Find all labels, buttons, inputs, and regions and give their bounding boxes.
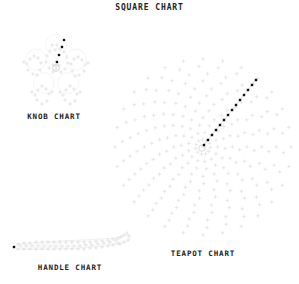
plus-marker <box>122 233 126 237</box>
plus-marker <box>190 155 194 159</box>
plus-marker <box>197 65 201 69</box>
plus-marker <box>175 206 179 210</box>
plus-marker <box>221 231 225 235</box>
plus-marker <box>251 133 255 137</box>
plus-marker <box>170 79 174 83</box>
plus-marker <box>197 189 201 193</box>
plus-marker <box>100 239 104 243</box>
plus-marker <box>193 203 197 207</box>
plus-marker <box>64 247 68 251</box>
plus-marker <box>77 73 81 77</box>
plus-marker <box>30 244 34 248</box>
plus-marker <box>48 49 52 53</box>
square-marker <box>56 61 58 63</box>
plus-marker <box>181 114 185 118</box>
plus-marker <box>54 67 58 71</box>
plus-marker <box>61 93 65 97</box>
plus-marker <box>205 226 209 230</box>
plus-marker <box>257 129 261 133</box>
plus-marker <box>34 247 38 251</box>
plus-marker <box>82 240 86 244</box>
plus-marker <box>186 161 190 165</box>
plus-marker <box>179 144 183 148</box>
plus-marker <box>166 136 170 140</box>
plus-marker <box>214 163 218 167</box>
plus-marker <box>249 100 253 104</box>
plus-marker <box>51 63 55 67</box>
plus-marker <box>287 126 291 130</box>
plus-marker <box>114 238 118 242</box>
plus-marker <box>75 92 79 96</box>
square-marker <box>231 109 233 111</box>
plus-marker <box>125 231 129 235</box>
plus-marker <box>26 68 30 72</box>
plus-marker <box>270 187 274 191</box>
plus-marker <box>151 158 155 162</box>
plus-marker <box>146 214 150 218</box>
plus-marker <box>240 83 244 87</box>
plus-marker <box>255 183 259 187</box>
plus-marker <box>215 179 219 183</box>
plus-marker <box>187 217 191 221</box>
plus-marker <box>252 149 256 153</box>
plus-marker <box>80 58 84 62</box>
plus-marker <box>63 67 67 71</box>
plus-marker <box>159 196 163 200</box>
plus-marker <box>135 149 139 153</box>
plus-marker <box>257 162 261 166</box>
plus-marker <box>116 236 120 240</box>
plus-marker <box>128 154 132 158</box>
plus-marker <box>122 183 126 187</box>
square-marker <box>219 124 221 126</box>
plus-marker <box>200 152 204 156</box>
plus-marker <box>54 60 58 64</box>
plus-marker <box>154 202 158 206</box>
plus-marker <box>25 62 29 66</box>
plus-marker <box>40 102 44 106</box>
square-marker <box>211 134 213 136</box>
plus-marker <box>263 167 267 171</box>
plus-marker <box>219 82 223 86</box>
plus-marker <box>230 145 234 149</box>
plus-marker <box>197 101 201 105</box>
plus-marker <box>245 118 249 122</box>
figure-title: SQUARE CHART <box>0 3 299 12</box>
teapot-hub-ring <box>199 145 205 151</box>
square-marker <box>247 89 249 91</box>
plus-marker <box>221 59 225 63</box>
plus-marker <box>68 84 72 88</box>
plus-marker <box>201 138 205 142</box>
plus-marker <box>196 131 200 135</box>
plus-marker <box>46 247 50 251</box>
plus-marker <box>45 99 49 103</box>
plus-marker <box>174 102 178 106</box>
plus-marker <box>234 161 238 165</box>
plus-marker <box>224 75 228 79</box>
square-marker <box>61 46 63 48</box>
plus-marker <box>220 156 224 160</box>
plus-marker <box>106 244 110 248</box>
plus-marker <box>190 118 194 122</box>
plus-marker <box>38 68 42 72</box>
plus-marker <box>281 131 285 135</box>
plus-marker <box>196 150 200 154</box>
plus-marker <box>108 240 112 244</box>
plus-marker <box>245 145 249 149</box>
plus-marker <box>127 234 131 238</box>
plus-marker <box>18 244 22 248</box>
plus-marker <box>239 224 243 228</box>
plus-marker <box>145 88 149 92</box>
handle-segment-ring <box>78 241 84 246</box>
plus-marker <box>60 44 64 48</box>
plus-marker <box>22 60 26 64</box>
handle-segment-ring <box>22 244 28 249</box>
plus-marker <box>278 170 282 174</box>
plus-marker <box>86 61 90 65</box>
plus-marker <box>222 137 226 141</box>
plus-marker <box>58 90 62 94</box>
plus-marker <box>260 145 264 149</box>
plus-marker <box>137 132 141 136</box>
square-marker <box>227 114 229 116</box>
plus-marker <box>222 124 226 128</box>
plus-marker <box>212 102 216 106</box>
